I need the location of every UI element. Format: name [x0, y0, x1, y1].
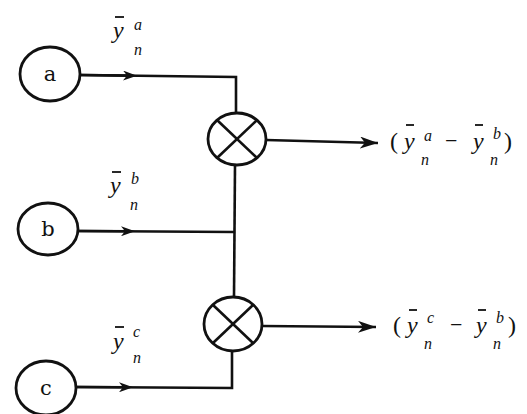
term2-symbol: y	[474, 312, 487, 338]
term1-symbol: y	[405, 312, 418, 338]
signal-label-a: y a n	[111, 16, 142, 58]
term2-superscript: b	[493, 125, 501, 142]
close-paren: )	[504, 128, 512, 154]
minus-operator: −	[445, 128, 457, 153]
open-paren: (	[390, 128, 398, 154]
wire-b-bus	[234, 165, 235, 297]
term1-symbol: y	[402, 128, 415, 154]
input-node-c: c	[16, 361, 76, 414]
output-expression-2: ( y c n − y b n )	[393, 309, 516, 352]
term2-subscript: n	[493, 335, 501, 352]
signal-label-c: y c n	[111, 323, 141, 366]
term1-superscript: a	[424, 127, 432, 144]
signal-label-b: y b n	[108, 170, 139, 213]
signal-symbol: y	[111, 17, 124, 43]
signal-superscript: c	[133, 323, 140, 340]
output-arrow-2	[262, 326, 376, 327]
node-label-c: c	[40, 376, 52, 400]
wire-a-to-comparator-1	[80, 75, 236, 113]
signal-subscript: n	[134, 41, 142, 58]
signal-symbol: y	[111, 328, 124, 354]
arrow-a	[80, 75, 130, 76]
open-paren: (	[393, 312, 401, 338]
signal-symbol: y	[108, 172, 121, 198]
comparator-2	[204, 297, 262, 351]
input-node-b: b	[18, 203, 78, 255]
term2-symbol: y	[471, 128, 484, 154]
wire-c-to-comparator-2	[76, 351, 232, 388]
term1-subscript: n	[421, 151, 429, 168]
close-paren: )	[508, 312, 516, 338]
node-label-b: b	[41, 217, 54, 241]
signal-subscript: n	[133, 349, 141, 366]
comparator-1	[208, 113, 266, 165]
term1-subscript: n	[424, 335, 432, 352]
node-label-a: a	[44, 62, 57, 86]
output-arrow-1	[266, 140, 378, 143]
minus-operator: −	[450, 312, 462, 337]
signal-superscript: b	[131, 170, 139, 187]
term1-superscript: c	[427, 309, 434, 326]
term2-superscript: b	[496, 309, 504, 326]
difference-block-diagram: a b c y a n y b n y c n ( y	[0, 0, 527, 414]
output-expression-1: ( y a n − y b n )	[390, 125, 512, 168]
term2-subscript: n	[490, 151, 498, 168]
signal-subscript: n	[130, 196, 138, 213]
input-node-a: a	[20, 47, 80, 101]
signal-superscript: a	[134, 16, 142, 33]
